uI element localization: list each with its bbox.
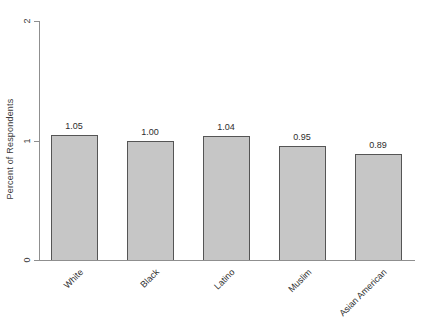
y-axis-tick-label: 0 [22,257,32,262]
bar-value-label: 1.05 [65,121,83,131]
bar-white [51,135,98,260]
y-axis-tick-label: 1 [22,138,32,143]
y-axis-tick [34,21,39,22]
bar-value-label: 1.00 [141,127,159,137]
x-axis-category-label: Muslim [286,267,313,294]
bar-muslim [279,146,326,260]
x-axis-category-label: Asian American [338,267,389,318]
x-axis-line [39,260,415,261]
y-axis-tick-label: 2 [22,18,32,23]
bar-asian-american [355,154,402,260]
x-axis-category-label: White [62,267,85,290]
y-axis-tick [34,141,39,142]
x-axis-category-label: Black [138,267,161,290]
bar-value-label: 0.89 [369,140,387,150]
y-axis-tick [34,260,39,261]
y-axis-line [39,21,40,261]
bar-value-label: 0.95 [293,132,311,142]
bar-value-label: 1.04 [217,122,235,132]
bar-black [127,141,174,261]
bar-latino [203,136,250,260]
bar-chart-figure: Percent of Respondents 0121.05White1.00B… [0,0,427,322]
x-axis-category-label: Latino [213,267,237,291]
plot-area: 0121.05White1.00Black1.04Latino0.95Musli… [0,0,427,322]
